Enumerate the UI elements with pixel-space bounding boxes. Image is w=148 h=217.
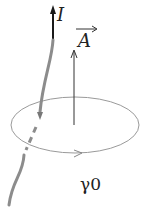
loop-arrow-icon (74, 150, 82, 157)
loop-label: γ0 (80, 176, 101, 193)
current-label: I (57, 6, 64, 24)
wire-upper (40, 40, 53, 112)
diagram-canvas (0, 0, 148, 217)
vector-a-label: A (78, 32, 91, 50)
wire-arrow-icon (37, 112, 43, 120)
current-arrowhead-icon (50, 5, 56, 14)
loop-gamma0 (11, 97, 139, 153)
wire-lower (9, 155, 24, 205)
